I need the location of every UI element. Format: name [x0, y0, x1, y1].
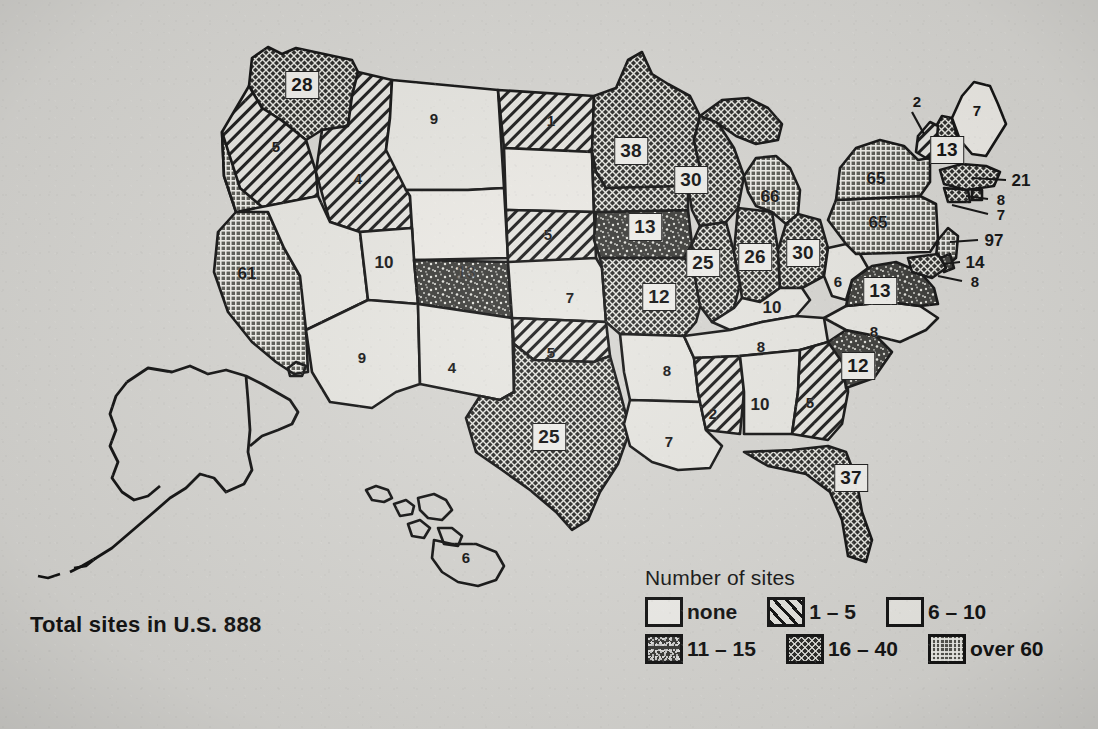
total-sites-caption: Total sites in U.S. 888	[30, 612, 261, 638]
legend-label-over60: over 60	[970, 637, 1044, 661]
state-value-RI: 8	[997, 192, 1005, 207]
state-value-MO: 12	[642, 283, 676, 311]
legend-item-over60: over 60	[928, 634, 1044, 664]
map-legend: Number of sites none1 – 56 – 1011 – 1516…	[645, 566, 1044, 671]
state-value-NC: 8	[870, 324, 878, 339]
legend-row-2: 11 – 1516 – 40over 60	[645, 634, 1044, 664]
state-value-MN: 38	[614, 137, 648, 165]
state-value-CT: 7	[997, 207, 1005, 222]
state-value-MT: 9	[430, 111, 438, 126]
state-value-DE: 14	[966, 254, 985, 271]
state-value-MA: 21	[1012, 172, 1031, 189]
choropleth-map-figure: 28383013252630122513131237 5491576110945…	[0, 0, 1098, 729]
state-value-KY: 10	[763, 299, 782, 316]
state-value-KS: 7	[566, 290, 574, 305]
state-value-IA: 13	[628, 213, 662, 241]
state-value-IL: 25	[686, 249, 720, 277]
state-value-WV: 6	[834, 274, 842, 289]
state-value-AL: 10	[751, 396, 770, 413]
legend-label-none: none	[687, 600, 737, 624]
state-value-MS: 2	[709, 406, 717, 421]
state-value-WI: 30	[674, 166, 708, 194]
state-value-IN: 26	[738, 243, 772, 271]
state-value-TX: 25	[532, 423, 566, 451]
state-value-AZ: 9	[358, 350, 366, 365]
state-value-GA: 5	[806, 395, 814, 410]
legend-swatch-6-10	[886, 597, 924, 627]
state-value-SC: 12	[841, 352, 875, 380]
legend-item-6-10: 6 – 10	[886, 597, 986, 627]
state-value-OH: 30	[786, 239, 820, 267]
state-value-LA: 7	[665, 434, 673, 449]
legend-item-1-5: 1 – 5	[767, 597, 856, 627]
state-value-FL: 37	[834, 464, 868, 492]
state-value-VT: 2	[913, 94, 921, 109]
legend-label-6-10: 6 – 10	[928, 600, 986, 624]
state-value-ID: 4	[354, 171, 362, 186]
legend-label-16-40: 16 – 40	[828, 637, 898, 661]
state-value-VA: 13	[863, 277, 897, 305]
state-value-TN: 8	[757, 339, 765, 354]
state-value-NV: 10	[375, 254, 394, 271]
legend-row-1: none1 – 56 – 10	[645, 597, 1044, 627]
state-value-ME: 7	[973, 103, 981, 118]
state-value-NM: 4	[448, 360, 456, 375]
legend-item-11-15: 11 – 15	[645, 634, 756, 664]
legend-swatch-11-15	[645, 634, 683, 664]
legend-item-none: none	[645, 597, 737, 627]
state-value-OR: 5	[272, 139, 280, 154]
legend-swatch-over60	[928, 634, 966, 664]
state-value-HI: 6	[462, 550, 470, 565]
state-value-NJ: 97	[985, 232, 1004, 249]
legend-swatch-16-40	[786, 634, 824, 664]
state-value-WA: 28	[285, 71, 319, 99]
state-value-NH: 13	[930, 136, 964, 164]
state-value-PA: 65	[869, 214, 888, 231]
state-value-NE: 5	[544, 227, 552, 242]
legend-item-16-40: 16 – 40	[786, 634, 898, 664]
state-value-OK: 5	[547, 345, 555, 360]
state-value-ND: 1	[547, 113, 555, 128]
legend-swatch-none	[645, 597, 683, 627]
legend-swatch-1-5	[767, 597, 805, 627]
state-value-MI: 66	[761, 188, 780, 205]
state-value-NY: 65	[867, 170, 886, 187]
state-value-CO: 13	[457, 264, 476, 281]
state-value-AR: 8	[663, 363, 671, 378]
state-value-MD: 8	[971, 274, 979, 289]
state-value-CA: 61	[238, 265, 257, 282]
legend-rows: none1 – 56 – 1011 – 1516 – 40over 60	[645, 597, 1044, 664]
legend-title: Number of sites	[645, 566, 1044, 590]
legend-label-1-5: 1 – 5	[809, 600, 856, 624]
legend-label-11-15: 11 – 15	[687, 637, 756, 661]
